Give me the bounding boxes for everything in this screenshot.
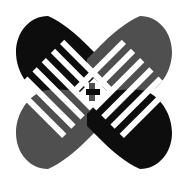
logo-mark [0, 0, 187, 183]
logo-canvas [0, 0, 187, 183]
